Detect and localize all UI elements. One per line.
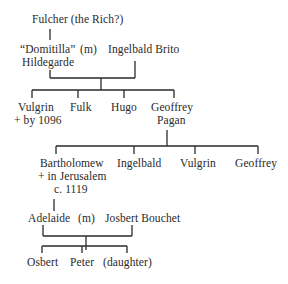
- marriage-marker-2: (m): [78, 212, 95, 224]
- marriage-marker-1: (m): [80, 43, 97, 55]
- note-vulgrin: + by 1096: [14, 114, 62, 126]
- person-josbert-bouchet: Josbert Bouchet: [105, 212, 180, 224]
- person-adelaide: Adelaide: [28, 212, 70, 224]
- genealogy-diagram: Fulcher (the Rich?) “Domitilla” (m) Inge…: [0, 0, 288, 284]
- person-bartholomew: Bartholomew: [40, 157, 104, 169]
- person-domitilla: “Domitilla”: [20, 43, 75, 55]
- person-fulk: Fulk: [70, 101, 92, 113]
- person-ingelbald-brito: Ingelbald Brito: [108, 43, 179, 55]
- person-geoffrey-pagan-line2: Pagan: [157, 114, 186, 126]
- person-geoffrey-pagan: Geoffrey: [151, 101, 193, 113]
- person-peter: Peter: [70, 256, 94, 268]
- person-vulgrin-2: Vulgrin: [180, 157, 216, 169]
- person-hugo: Hugo: [111, 101, 137, 113]
- person-daughter: (daughter): [103, 256, 152, 268]
- person-geoffrey-2: Geoffrey: [235, 157, 277, 169]
- person-fulcher: Fulcher (the Rich?): [32, 13, 123, 25]
- person-ingelbald: Ingelbald: [117, 157, 161, 169]
- person-hildegarde: Hildegarde: [22, 56, 74, 68]
- person-vulgrin: Vulgrin: [18, 101, 54, 113]
- person-osbert: Osbert: [27, 256, 58, 268]
- note-bartholomew-1: + in Jerusalem: [38, 170, 107, 182]
- note-bartholomew-2: c. 1119: [54, 183, 88, 195]
